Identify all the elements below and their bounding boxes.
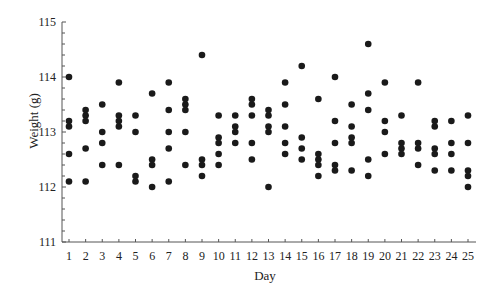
data-point <box>398 151 405 158</box>
data-point <box>232 129 239 136</box>
data-point <box>165 129 172 136</box>
data-point <box>332 74 339 81</box>
x-tick-label: 11 <box>229 249 241 263</box>
data-points <box>66 41 472 191</box>
x-tick-label: 20 <box>379 249 391 263</box>
x-tick-label: 23 <box>429 249 441 263</box>
data-point <box>232 112 239 119</box>
data-point <box>149 162 156 169</box>
data-point <box>249 140 256 147</box>
x-tick-label: 4 <box>116 249 122 263</box>
data-point <box>365 41 372 48</box>
data-point <box>332 140 339 147</box>
data-point <box>116 79 123 86</box>
data-point <box>282 123 289 130</box>
data-point <box>249 112 256 119</box>
x-tick-label: 19 <box>362 249 374 263</box>
data-point <box>99 162 106 169</box>
data-point <box>282 140 289 147</box>
data-point <box>199 52 206 59</box>
data-point <box>215 140 222 147</box>
data-point <box>315 96 322 103</box>
data-point <box>182 107 189 114</box>
x-tick-label: 25 <box>462 249 474 263</box>
x-axis: 1234567891011121314151617181920212223242… <box>62 239 476 263</box>
x-tick-label: 15 <box>296 249 308 263</box>
data-point <box>282 101 289 108</box>
x-tick-label: 3 <box>99 249 105 263</box>
data-point <box>365 173 372 180</box>
x-tick-label: 14 <box>279 249 291 263</box>
data-point <box>165 145 172 152</box>
data-point <box>348 167 355 174</box>
data-point <box>82 118 89 125</box>
data-point <box>99 129 106 136</box>
data-point <box>431 167 438 174</box>
data-point <box>298 134 305 141</box>
data-point <box>199 173 206 180</box>
data-point <box>431 123 438 130</box>
data-point <box>365 90 372 97</box>
y-tick-label: 113 <box>38 125 56 139</box>
data-point <box>382 151 389 158</box>
data-point <box>99 140 106 147</box>
data-point <box>382 118 389 125</box>
y-axis: 111112113114115 <box>38 15 66 249</box>
data-point <box>82 145 89 152</box>
data-point <box>448 118 455 125</box>
x-axis-title: Day <box>254 268 276 283</box>
data-point <box>448 151 455 158</box>
data-point <box>66 151 73 158</box>
data-point <box>382 79 389 86</box>
data-point <box>348 101 355 108</box>
data-point <box>298 156 305 163</box>
data-point <box>465 140 472 147</box>
data-point <box>165 79 172 86</box>
data-point <box>249 156 256 163</box>
data-point <box>315 173 322 180</box>
x-tick-label: 18 <box>346 249 358 263</box>
data-point <box>149 90 156 97</box>
y-tick-label: 114 <box>38 70 56 84</box>
data-point <box>332 118 339 125</box>
data-point <box>382 129 389 136</box>
scatter-chart: 111112113114115 123456789101112131415161… <box>0 0 499 301</box>
data-point <box>315 162 322 169</box>
data-point <box>182 162 189 169</box>
data-point <box>465 184 472 191</box>
data-point <box>265 184 272 191</box>
data-point <box>249 101 256 108</box>
data-point <box>232 140 239 147</box>
data-point <box>66 123 73 130</box>
data-point <box>465 112 472 119</box>
data-point <box>149 184 156 191</box>
x-tick-label: 22 <box>412 249 424 263</box>
x-tick-label: 7 <box>166 249 172 263</box>
data-point <box>116 123 123 130</box>
data-point <box>215 151 222 158</box>
x-tick-label: 8 <box>182 249 188 263</box>
x-tick-label: 17 <box>329 249 341 263</box>
data-point <box>465 173 472 180</box>
data-point <box>365 156 372 163</box>
data-point <box>82 178 89 185</box>
x-tick-label: 10 <box>213 249 225 263</box>
data-point <box>215 162 222 169</box>
x-tick-label: 2 <box>83 249 89 263</box>
data-point <box>415 79 422 86</box>
data-point <box>132 129 139 136</box>
x-tick-label: 16 <box>312 249 324 263</box>
y-tick-label: 112 <box>38 180 56 194</box>
x-tick-label: 24 <box>445 249 457 263</box>
x-tick-label: 13 <box>263 249 275 263</box>
data-point <box>116 162 123 169</box>
data-point <box>348 123 355 130</box>
data-point <box>282 151 289 158</box>
data-point <box>132 112 139 119</box>
data-point <box>182 129 189 136</box>
x-tick-label: 1 <box>66 249 72 263</box>
data-point <box>282 79 289 86</box>
data-point <box>398 112 405 119</box>
data-point <box>348 140 355 147</box>
x-tick-label: 6 <box>149 249 155 263</box>
